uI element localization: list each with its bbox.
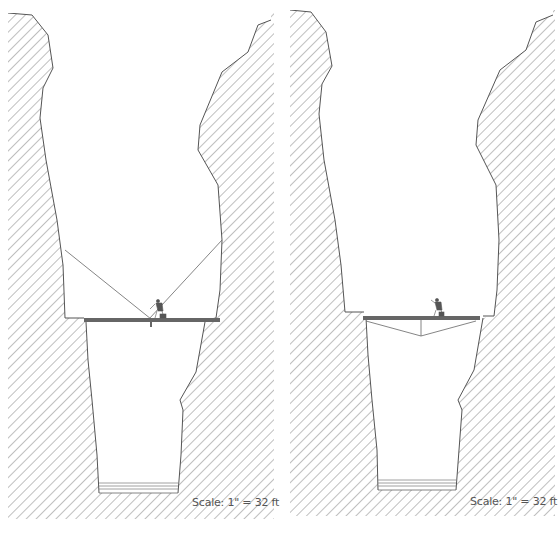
bridge-platform [363, 316, 480, 320]
bridge-platform [84, 318, 220, 322]
scale-label-right: Scale: 1" = 32 ft [470, 495, 557, 508]
platform-hanger [150, 322, 152, 327]
left-panel [8, 13, 274, 519]
right-panel [290, 10, 555, 516]
cave-diagram [0, 0, 560, 533]
scale-label-left: Scale: 1" = 32 ft [192, 496, 279, 509]
